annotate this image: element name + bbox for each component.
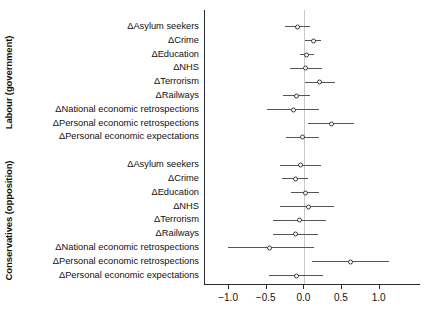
point-estimate-marker	[297, 218, 302, 223]
plot-area	[204, 10, 420, 285]
point-estimate-marker	[295, 24, 300, 29]
x-axis-tick	[228, 285, 229, 289]
estimate-row	[312, 261, 390, 262]
category-label: ΔCrime	[168, 174, 199, 183]
estimate-row	[273, 234, 317, 235]
estimate-row	[305, 40, 321, 41]
estimate-row	[269, 275, 323, 276]
x-axis-tick	[379, 285, 380, 289]
point-estimate-marker	[294, 93, 299, 98]
category-label: ΔAsylum seekers	[127, 160, 199, 169]
category-label: ΔCrime	[168, 36, 199, 45]
category-label: ΔNHS	[173, 64, 199, 73]
category-label: ΔAsylum seekers	[127, 22, 199, 31]
category-label: ΔEducation	[151, 188, 199, 197]
x-axis-tick	[303, 285, 304, 289]
point-estimate-marker	[303, 66, 308, 71]
category-label: ΔPersonal economic expectations	[59, 133, 199, 142]
estimate-row	[273, 220, 326, 221]
estimate-row	[308, 123, 354, 124]
x-axis-tick-label: 0.0	[296, 292, 310, 303]
point-estimate-marker	[293, 232, 298, 237]
point-estimate-marker	[304, 52, 309, 57]
x-axis-tick	[341, 285, 342, 289]
estimate-row	[228, 247, 315, 248]
group-axis-label-labour-text: Labour (government)	[4, 35, 15, 129]
coefficient-plot-figure: Labour (government) Conservatives (oppos…	[0, 0, 429, 322]
point-estimate-marker	[317, 80, 322, 85]
group-axis-label-labour: Labour (government)	[0, 20, 18, 144]
category-label: ΔNational economic retrospections	[55, 243, 199, 252]
estimate-row	[280, 165, 321, 166]
x-axis-tick-label: 1.0	[372, 292, 386, 303]
point-estimate-marker	[329, 121, 334, 126]
point-estimate-marker	[348, 259, 353, 264]
category-label: ΔTerrorism	[154, 77, 199, 86]
estimate-row	[283, 95, 309, 96]
category-label: ΔNational economic retrospections	[55, 105, 199, 114]
estimate-row	[267, 109, 319, 110]
estimate-row	[300, 54, 314, 55]
category-label: ΔPersonal economic retrospections	[53, 119, 199, 128]
point-estimate-marker	[267, 245, 272, 250]
x-axis-tick-label: −0.5	[256, 292, 276, 303]
estimate-row	[286, 137, 318, 138]
group-axis-label-conservatives: Conservatives (opposition)	[0, 158, 18, 282]
point-estimate-marker	[303, 190, 308, 195]
x-axis-tick	[266, 285, 267, 289]
x-axis-tick-label: 0.5	[334, 292, 348, 303]
point-estimate-marker	[294, 273, 299, 278]
category-label: ΔRailways	[156, 91, 199, 100]
group-axis-label-conservatives-text: Conservatives (opposition)	[4, 160, 15, 280]
category-label: ΔNHS	[173, 202, 199, 211]
point-estimate-marker	[311, 38, 316, 43]
category-label: ΔPersonal economic expectations	[59, 271, 199, 280]
category-label: ΔPersonal economic retrospections	[53, 257, 199, 266]
estimate-row	[290, 68, 322, 69]
point-estimate-marker	[298, 163, 303, 168]
point-estimate-marker	[293, 176, 298, 181]
estimate-row	[305, 82, 335, 83]
x-axis-tick-label: −1.0	[218, 292, 238, 303]
estimate-row	[285, 26, 311, 27]
category-label: ΔRailways	[156, 229, 199, 238]
point-estimate-marker	[306, 204, 311, 209]
estimate-row	[280, 206, 334, 207]
point-estimate-marker	[291, 107, 296, 112]
estimate-row	[282, 178, 308, 179]
category-label: ΔEducation	[151, 50, 199, 59]
category-label: ΔTerrorism	[154, 216, 199, 225]
estimate-row	[291, 192, 319, 193]
